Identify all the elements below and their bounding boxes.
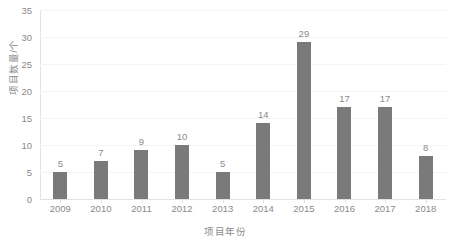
bar-value-label: 17 bbox=[380, 93, 391, 104]
y-axis-tick: 10 bbox=[21, 140, 32, 151]
x-axis-tickmark bbox=[101, 199, 102, 203]
x-axis-tick: 2015 bbox=[284, 203, 325, 214]
bar-value-label: 8 bbox=[423, 142, 428, 153]
bar-group: 5 bbox=[202, 10, 243, 199]
x-axis-tick: 2014 bbox=[243, 203, 284, 214]
x-axis-tickmark bbox=[263, 199, 264, 203]
bar-value-label: 5 bbox=[220, 158, 225, 169]
bar-value-label: 14 bbox=[258, 109, 269, 120]
y-axis-tick: 0 bbox=[27, 194, 32, 205]
bar-value-label: 10 bbox=[177, 131, 188, 142]
y-axis-tick: 20 bbox=[21, 86, 32, 97]
bar bbox=[216, 172, 230, 199]
y-axis-tick-labels: 05101520253035 bbox=[0, 0, 36, 244]
bar-value-label: 17 bbox=[339, 93, 350, 104]
bar bbox=[256, 123, 270, 199]
x-axis-tick-labels: 2009201020112012201320142015201620172018 bbox=[40, 203, 446, 219]
bar-group: 7 bbox=[81, 10, 122, 199]
x-axis-tickmark bbox=[223, 199, 224, 203]
bar bbox=[378, 107, 392, 199]
bar-group: 5 bbox=[40, 10, 81, 199]
x-axis-tickmark bbox=[182, 199, 183, 203]
bar bbox=[337, 107, 351, 199]
bar-group: 17 bbox=[324, 10, 365, 199]
x-axis-tickmark bbox=[426, 199, 427, 203]
x-axis-tick: 2012 bbox=[162, 203, 203, 214]
bar-value-label: 5 bbox=[58, 158, 63, 169]
bar bbox=[419, 156, 433, 199]
x-axis-tickmark bbox=[345, 199, 346, 203]
x-axis-tickmark bbox=[304, 199, 305, 203]
bar-series: 579105142917178 bbox=[40, 10, 446, 199]
bar-group: 14 bbox=[243, 10, 284, 199]
x-axis-tick: 2013 bbox=[202, 203, 243, 214]
bar-value-label: 9 bbox=[139, 136, 144, 147]
bar bbox=[94, 161, 108, 199]
y-axis-tick: 15 bbox=[21, 113, 32, 124]
x-axis-tick: 2017 bbox=[365, 203, 406, 214]
bar bbox=[134, 150, 148, 199]
y-axis-tick: 25 bbox=[21, 59, 32, 70]
bar-group: 9 bbox=[121, 10, 162, 199]
y-axis-tick: 30 bbox=[21, 32, 32, 43]
x-axis-tickmark bbox=[60, 199, 61, 203]
bar-group: 17 bbox=[365, 10, 406, 199]
x-axis-tick: 2009 bbox=[40, 203, 81, 214]
x-axis-tick: 2010 bbox=[81, 203, 122, 214]
bar-group: 29 bbox=[284, 10, 325, 199]
bar-group: 8 bbox=[405, 10, 446, 199]
bar-value-label: 7 bbox=[98, 147, 103, 158]
plot-area: 579105142917178 bbox=[40, 10, 446, 199]
y-axis-tick: 35 bbox=[21, 5, 32, 16]
bar bbox=[53, 172, 67, 199]
bar-group: 10 bbox=[162, 10, 203, 199]
bar-chart: 项目数量/个 05101520253035 579105142917178 20… bbox=[0, 0, 450, 244]
bar bbox=[297, 42, 311, 199]
x-axis-title: 项目年份 bbox=[0, 224, 450, 238]
x-axis-tick: 2018 bbox=[405, 203, 446, 214]
x-axis-tickmark bbox=[385, 199, 386, 203]
x-axis-tickmark bbox=[142, 199, 143, 203]
bar bbox=[175, 145, 189, 199]
y-axis-tick: 5 bbox=[27, 167, 32, 178]
x-axis-tick: 2011 bbox=[121, 203, 162, 214]
x-axis-tick: 2016 bbox=[324, 203, 365, 214]
bar-value-label: 29 bbox=[299, 28, 310, 39]
